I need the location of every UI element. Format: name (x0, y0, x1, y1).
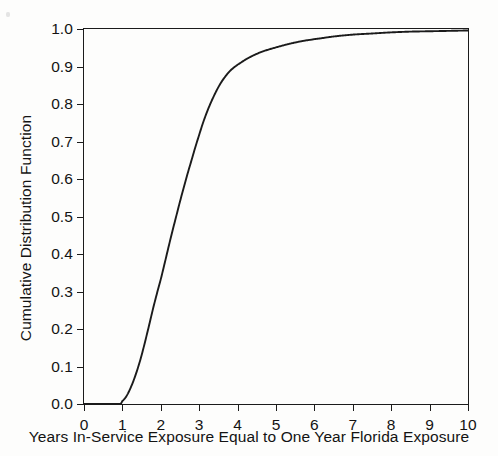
x-axis-tick (238, 404, 239, 411)
x-axis-tick (353, 404, 354, 411)
x-axis-tick (84, 404, 85, 411)
x-axis-title: Years In-Service Exposure Equal to One Y… (0, 428, 498, 446)
y-axis-tick (77, 404, 84, 405)
y-axis-tick (77, 217, 84, 218)
y-axis-tick-label: 0.5 (51, 208, 73, 226)
y-axis-title-text: Cumulative Distribution Function (17, 115, 35, 341)
x-axis-tick (199, 404, 200, 411)
y-axis-tick (77, 67, 84, 68)
y-axis-tick (77, 329, 84, 330)
plot-area: 0.00.10.20.30.40.50.60.70.80.91.00123456… (83, 28, 469, 405)
y-axis-tick-label: 0.8 (51, 95, 73, 113)
y-axis-tick-label: 0.2 (51, 320, 73, 338)
y-axis-tick (77, 367, 84, 368)
y-axis-tick (77, 142, 84, 143)
x-axis-tick (430, 404, 431, 411)
y-axis-tick-label: 1.0 (51, 20, 73, 38)
x-axis-tick (161, 404, 162, 411)
x-axis-tick (314, 404, 315, 411)
y-axis-tick (77, 179, 84, 180)
x-axis-title-text: Years In-Service Exposure Equal to One Y… (29, 428, 470, 445)
cdf-curve (84, 29, 468, 404)
y-axis-tick-label: 0.9 (51, 58, 73, 76)
y-axis-tick (77, 29, 84, 30)
y-axis-tick-label: 0.6 (51, 170, 73, 188)
y-axis-tick (77, 292, 84, 293)
figure-cdf-chart: Cumulative Distribution Function 0.00.10… (0, 0, 498, 456)
x-axis-tick (468, 404, 469, 411)
y-axis-title: Cumulative Distribution Function (14, 0, 38, 456)
x-axis-tick (276, 404, 277, 411)
x-axis-tick (122, 404, 123, 411)
y-axis-tick (77, 254, 84, 255)
y-axis-tick-label: 0.3 (51, 283, 73, 301)
y-axis-tick-label: 0.1 (51, 358, 73, 376)
y-axis-tick-label: 0.0 (51, 395, 73, 413)
scan-artifact-speck (6, 12, 10, 17)
y-axis-tick (77, 104, 84, 105)
x-axis-tick (391, 404, 392, 411)
y-axis-tick-label: 0.7 (51, 133, 73, 151)
y-axis-tick-label: 0.4 (51, 245, 73, 263)
